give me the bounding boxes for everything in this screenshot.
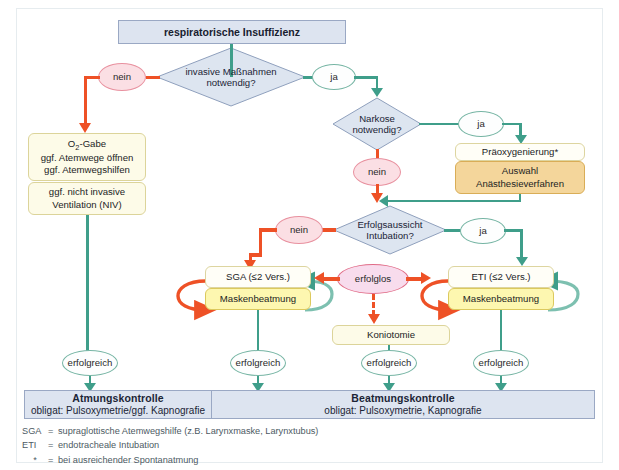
decision-invasive-line1: invasive Maßnahmen: [157, 66, 305, 77]
box-niv-line2: Ventilation (NIV): [52, 199, 121, 211]
footnote-sga-eq: =: [48, 424, 58, 438]
ellipse-ja-narkose: ja: [458, 111, 504, 137]
box-auswahl-line2: Anästhesieverfahren: [476, 178, 564, 190]
footnote-sga-key: SGA: [22, 424, 48, 438]
edge-erfolglos-right: [406, 277, 422, 280]
box-niv-line1: ggf. nicht invasive: [49, 186, 125, 198]
box-o2-line1: O2-Gabe: [68, 138, 106, 152]
ellipse-ja-intubation: ja: [460, 218, 506, 244]
arrowhead-to-narkose: [371, 88, 383, 97]
box-eti: ETI (≤2 Vers.): [448, 266, 554, 288]
box-maskenbeatmung-right: Maskenbeatmung: [448, 288, 554, 310]
box-auswahl-anaesthesieverfahren: Auswahl Anästhesieverfahren: [455, 161, 585, 194]
box-praeoxygenierung: Präoxygenierung*: [455, 143, 585, 161]
box-sga: SGA (≤2 Vers.): [205, 266, 311, 288]
footnote-sga: SGA = supraglottische Atemwegshilfe (z.B…: [22, 424, 492, 438]
ellipse-nein-narkose: nein: [353, 158, 401, 186]
ellipse-nein-invasive: nein: [98, 63, 146, 91]
edge-erfolglos-left: [324, 277, 340, 280]
edge-sga-to-erfolgreich: [257, 310, 260, 352]
footnote-list: SGA = supraglottische Atemwegshilfe (z.B…: [22, 424, 492, 467]
footnote-eti-key: ETI: [22, 438, 48, 452]
box-o2-gabe: O2-Gabe ggf. Atemwege öffnen ggf. Atemwe…: [28, 133, 146, 181]
ellipse-erfolgreich-2: erfolgreich: [230, 350, 286, 376]
edge-nein-down: [84, 76, 87, 126]
arrowhead-to-o2-box: [79, 123, 91, 133]
result-bar-beatmungskontrolle-subtitle: obligat: Pulsoxymetrie, Kapnografie: [324, 405, 481, 417]
box-auswahl-line1: Auswahl: [502, 165, 538, 177]
footnote-star: * = bei ausreichender Spontanatmung: [22, 453, 492, 467]
arrowhead-to-koniotomie: [368, 314, 380, 324]
box-niv: ggf. nicht invasive Ventilation (NIV): [28, 182, 146, 215]
result-bar-beatmungskontrolle: Beatmungskontrolle obligat: Pulsoxymetri…: [211, 390, 595, 419]
result-bar-atmungskontrolle: Atmungskontrolle obligat: Pulsoxymetrie/…: [24, 390, 212, 419]
decision-narkose: Narkose notwendig?: [333, 98, 421, 150]
box-o2-line3: ggf. Atemwegshilfen: [44, 164, 130, 176]
ellipse-nein-intubation: nein: [275, 216, 323, 244]
edge-narkose-to-ja: [419, 123, 460, 126]
ellipse-erfolglos: erfolglos: [337, 264, 409, 294]
footnote-sga-text: supraglottische Atemwegshilfe (z.B. Lary…: [58, 424, 318, 438]
result-bar-beatmungskontrolle-title: Beatmungskontrolle: [351, 392, 454, 404]
footnote-star-text: bei ausreichender Spontanatmung: [58, 453, 198, 467]
decision-intubation-line2: Intubation?: [334, 230, 446, 241]
result-bar-atmungskontrolle-subtitle: obligat: Pulsoxymetrie/ggf. Kapnografie: [31, 405, 205, 417]
box-koniotomie: Koniotomie: [332, 325, 450, 345]
decision-invasive-massnahmen: invasive Maßnahmen notwendig?: [157, 48, 305, 106]
edge-eti-to-erfolgreich: [500, 310, 503, 352]
footnote-star-key: *: [22, 453, 48, 467]
footnote-eti-text: endotracheale Intubation: [58, 438, 159, 452]
arrowhead-auswahl-to-intubation: [379, 195, 388, 207]
ellipse-ja-invasive: ja: [312, 64, 356, 90]
edge-niv-to-erfolgreich: [86, 215, 89, 352]
footnote-eti-eq: =: [48, 438, 58, 452]
footnote-star-eq: =: [48, 453, 58, 467]
ellipse-erfolgreich-3: erfolgreich: [361, 350, 417, 376]
arrowhead-erfolglos-to-eti: [421, 272, 431, 284]
footnote-eti: ETI = endotracheale Intubation: [22, 438, 492, 452]
arrowhead-erfolglos-to-sga: [314, 272, 324, 284]
decision-intubation-line1: Erfolgsaussicht: [334, 219, 446, 230]
arrowhead-to-eti: [516, 257, 528, 266]
edge-ja-intubation-down: [520, 229, 523, 259]
box-maskenbeatmung-left: Maskenbeatmung: [205, 288, 311, 310]
edge-auswahl-left: [388, 200, 521, 203]
decision-invasive-line2: notwendig?: [157, 77, 305, 88]
ellipse-erfolgreich-4: erfolgreich: [473, 350, 529, 376]
page-title: respiratorische Insuffizienz: [118, 20, 346, 44]
edge-erfolglos-dashed: [372, 294, 375, 316]
result-bar-atmungskontrolle-title: Atmungskontrolle: [72, 392, 163, 404]
edge-ja-right-stub: [354, 76, 378, 79]
box-o2-suffix: -Gabe: [79, 138, 106, 149]
decision-narkose-line1: Narkose: [333, 113, 421, 124]
decision-erfolgsaussicht-intubation: Erfolgsaussicht Intubation?: [334, 206, 446, 254]
decision-narkose-line2: notwendig?: [333, 124, 421, 135]
box-o2-line2: ggf. Atemwege öffnen: [41, 152, 134, 164]
flowchart-figure: respiratorische Insuffizienz invasive Ma…: [0, 0, 619, 470]
ellipse-erfolgreich-1: erfolgreich: [62, 350, 118, 376]
